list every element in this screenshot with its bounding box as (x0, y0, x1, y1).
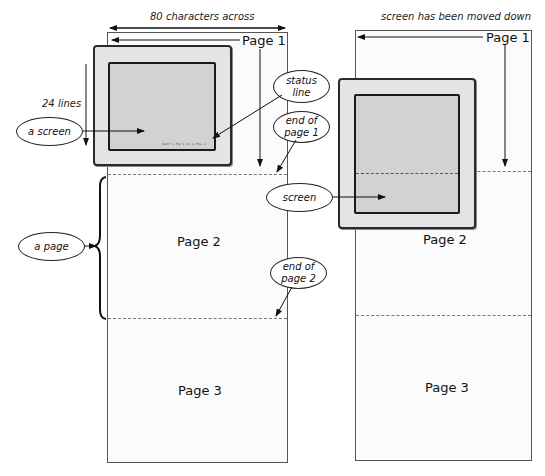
callout-screen: screen (266, 183, 333, 212)
callout-a-page: a page (18, 232, 85, 261)
callout-status-line: status line (273, 70, 330, 103)
callout-end-of-page-2: end of page 2 (270, 257, 327, 289)
left-end-of-page-2-line (108, 318, 287, 319)
left-monitor-screen: Sect 1 Pg 1 Ln 1 Pos 1 (108, 62, 216, 151)
height-label: 24 lines (42, 98, 81, 109)
right-caption: screen has been moved down (381, 11, 531, 22)
right-page-2-label: Page 2 (423, 232, 467, 247)
status-line-text: Sect 1 Pg 1 Ln 1 Pos 1 (162, 142, 206, 146)
left-page-3-label: Page 3 (178, 383, 222, 398)
right-monitor (338, 78, 476, 229)
right-screen-page-break (356, 173, 458, 174)
callout-end-of-page-1: end of page 1 (273, 111, 330, 143)
right-monitor-screen (354, 94, 460, 214)
left-page-1-label: Page 1 (242, 33, 286, 48)
right-end-of-page-2-line (356, 315, 531, 316)
page-brace (95, 177, 106, 319)
left-end-of-page-1-line (108, 174, 287, 175)
left-monitor: Sect 1 Pg 1 Ln 1 Pos 1 (93, 45, 232, 166)
callout-a-screen: a screen (16, 117, 83, 146)
right-page-3-label: Page 3 (425, 380, 469, 395)
width-label: 80 characters across (150, 11, 254, 22)
right-page-1-label: Page 1 (486, 30, 530, 45)
left-page-2-label: Page 2 (177, 234, 221, 249)
